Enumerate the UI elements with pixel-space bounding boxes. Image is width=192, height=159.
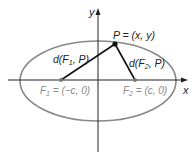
ellipse-diagram: y x P = (x, y) d(F1, P) d(F2, P) F1 = (−… <box>0 0 192 159</box>
distance-2-label: d(F2, P) <box>129 57 165 70</box>
x-axis-label: x <box>182 84 189 96</box>
y-axis-label: y <box>88 6 96 18</box>
focus-2-point <box>133 78 137 82</box>
point-p <box>112 41 117 46</box>
point-p-label: P = (x, y) <box>113 29 155 41</box>
focus-1-label: F1 = (−c, 0) <box>40 85 90 97</box>
focus-1-point <box>59 78 63 82</box>
distance-1-label: d(F1, P) <box>53 53 89 66</box>
focus-2-label: F2 = (c, 0) <box>123 85 167 97</box>
x-axis-arrow-icon <box>181 78 188 83</box>
y-axis-arrow-icon <box>96 8 101 15</box>
